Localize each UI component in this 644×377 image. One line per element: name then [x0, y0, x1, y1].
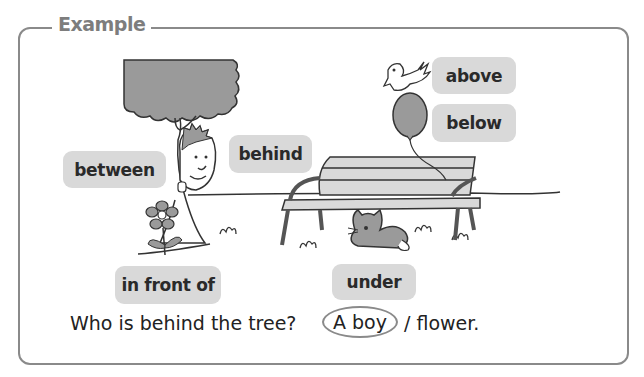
chip-under[interactable]: under — [332, 264, 416, 300]
chip-in-front-of[interactable]: in front of — [115, 266, 221, 304]
chip-above[interactable]: above — [432, 57, 516, 94]
bird-icon — [384, 62, 430, 90]
cat-icon — [348, 210, 409, 251]
chip-below[interactable]: below — [432, 104, 516, 142]
chip-between[interactable]: between — [63, 151, 166, 188]
grass-icon — [220, 225, 468, 248]
answer-option-a-circled[interactable]: A boy — [322, 306, 398, 338]
answer-option-b[interactable]: / flower. — [404, 312, 479, 334]
chip-behind[interactable]: behind — [229, 135, 312, 173]
boy-icon — [178, 124, 216, 192]
question-text: Who is behind the tree? — [70, 312, 296, 334]
